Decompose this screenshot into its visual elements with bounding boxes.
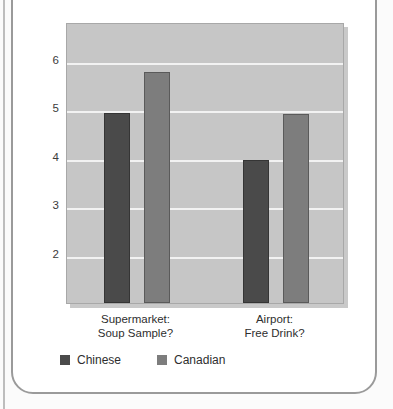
- y-axis-tick-label: 3: [33, 199, 59, 211]
- x-tick-line-1: Supermarket:: [101, 313, 170, 325]
- legend-label: Chinese: [77, 353, 121, 367]
- bar-body: [104, 113, 130, 303]
- bar-chinese-group2: [243, 160, 269, 303]
- y-axis-tick-label: 4: [33, 151, 59, 163]
- x-tick-line-1: Airport:: [256, 313, 293, 325]
- bar-canadian-group1: [144, 72, 170, 303]
- legend-swatch-icon: [60, 355, 70, 365]
- legend-swatch-icon: [157, 355, 167, 365]
- gridline: [67, 63, 343, 65]
- bar-chinese-group1: [104, 113, 130, 303]
- legend-item-chinese[interactable]: Chinese: [60, 353, 121, 367]
- bar-body: [243, 160, 269, 303]
- x-axis-tick-label: Airport:Free Drink?: [205, 312, 345, 340]
- bar-canadian-group2: [283, 114, 309, 303]
- plot-area: [66, 23, 344, 304]
- x-tick-line-2: Free Drink?: [205, 326, 345, 340]
- chart-legend: ChineseCanadian: [60, 353, 225, 367]
- legend-label: Canadian: [174, 353, 225, 367]
- legend-item-canadian[interactable]: Canadian: [157, 353, 225, 367]
- bar-body: [144, 72, 170, 303]
- x-axis-tick-label: Supermarket:Soup Sample?: [66, 312, 206, 340]
- y-axis-tick-label: 6: [33, 54, 59, 66]
- bar-body: [283, 114, 309, 303]
- x-tick-line-2: Soup Sample?: [66, 326, 206, 340]
- page-background: Figure: Willingness to accept free offer…: [0, 0, 393, 409]
- y-axis-tick-label: 5: [33, 102, 59, 114]
- scan-edge-line: [3, 0, 5, 409]
- y-axis-tick-label: 2: [33, 248, 59, 260]
